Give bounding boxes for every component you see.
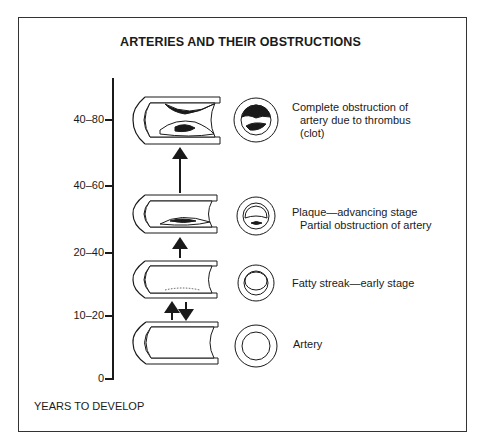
artery-section-healthy — [133, 322, 218, 364]
cross-section-fatty-streak — [238, 265, 274, 301]
cross-section-healthy — [235, 325, 277, 367]
years-axis — [105, 78, 113, 380]
artery-section-clot — [133, 97, 220, 144]
cross-section-clot — [234, 98, 278, 142]
cross-section-plaque — [237, 197, 275, 235]
artery-section-fatty-streak — [133, 261, 217, 298]
caption-artery: Artery — [293, 338, 322, 351]
artery-section-plaque — [133, 195, 217, 233]
caption-clot: Complete obstruction of artery due to th… — [292, 101, 411, 140]
axis-label: YEARS TO DEVELOP — [34, 400, 144, 412]
caption-fatty-streak: Fatty streak—early stage — [292, 277, 414, 290]
caption-plaque: Plaque—advancing stage Partial obstructi… — [292, 206, 431, 232]
